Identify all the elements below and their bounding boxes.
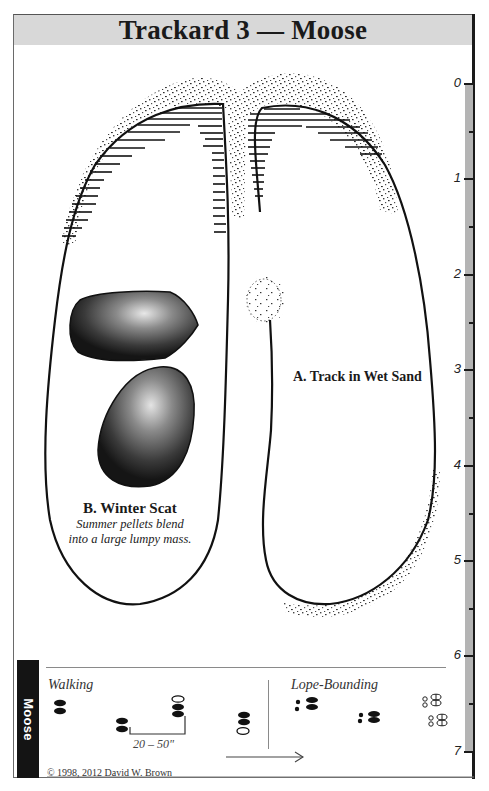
copyright: © 1998, 2012 David W. Brown bbox=[47, 767, 172, 778]
gait-section-divider bbox=[46, 667, 446, 668]
scat-caption-line2: into a large lumpy mass. bbox=[50, 532, 210, 547]
scat-label-block: B. Winter Scat Summer pellets blend into… bbox=[50, 499, 210, 547]
scat-pellet-lower bbox=[98, 367, 194, 487]
lope-track-2 bbox=[358, 711, 380, 723]
moose-track-illustration bbox=[0, 0, 489, 791]
walking-track-4 bbox=[237, 712, 250, 735]
stride-measure: 20 – 50" bbox=[133, 737, 174, 752]
gait-vertical-divider bbox=[268, 680, 269, 749]
lope-track-4 bbox=[429, 714, 447, 726]
walking-track-3 bbox=[172, 696, 184, 717]
scat-caption-line1: Summer pellets blend bbox=[50, 517, 210, 532]
right-hoof-outline bbox=[255, 106, 435, 605]
dewclaw-stipple bbox=[246, 276, 286, 324]
walking-track-1 bbox=[54, 700, 66, 714]
lope-tracks bbox=[295, 694, 447, 726]
scat-label: B. Winter Scat bbox=[50, 499, 210, 517]
lope-bounding-label: Lope-Bounding bbox=[291, 677, 378, 693]
walking-label: Walking bbox=[48, 677, 93, 693]
track-label: A. Track in Wet Sand bbox=[293, 369, 422, 385]
side-tab-label: Moose bbox=[21, 698, 36, 741]
direction-arrow-icon bbox=[226, 752, 303, 762]
stride-bracket bbox=[130, 716, 185, 734]
scat-pellet-upper bbox=[70, 291, 198, 360]
sand-stipple-top bbox=[62, 73, 398, 245]
lope-track-1 bbox=[295, 697, 318, 711]
lope-track-3 bbox=[423, 694, 441, 707]
side-tab-label-wrap: Moose bbox=[17, 660, 39, 778]
walking-track-2 bbox=[116, 718, 128, 732]
walking-tracks bbox=[54, 696, 250, 735]
